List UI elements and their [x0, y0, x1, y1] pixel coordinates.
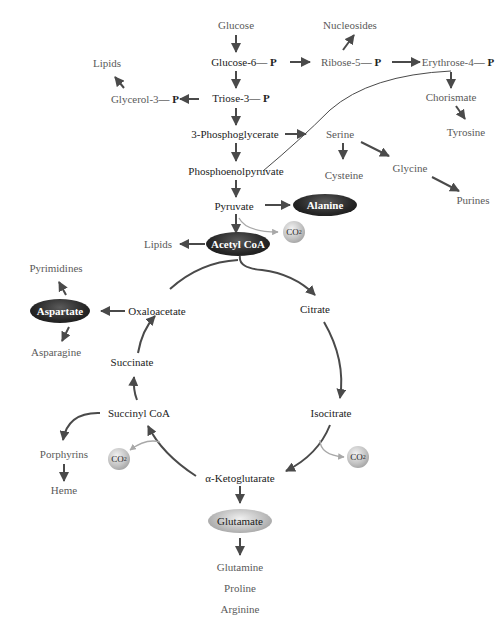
label-purines: Purines: [457, 195, 490, 206]
label-ribose-5-p-text: Ribose-5: [321, 56, 361, 68]
co2-text: CO: [286, 227, 299, 237]
arc-oxaloacetate-top: [170, 260, 238, 289]
co2-subscript: 2: [363, 454, 366, 460]
label-phosphoenolpyruvate: Phosphoenolpyruvate: [188, 166, 283, 177]
arrow-glycerol-lipids: [115, 77, 124, 88]
line-pep-erythrose: [263, 71, 451, 171]
label-succinate: Succinate: [111, 357, 154, 368]
label-glycerol-3-p-text: Glycerol-3: [111, 93, 159, 105]
phosphate-label: — P: [474, 56, 494, 68]
label-glucose: Glucose: [218, 20, 254, 31]
co2-text: CO: [350, 452, 363, 462]
label-oxaloacetate: Oxaloacetate: [128, 306, 185, 317]
label-heme: Heme: [51, 485, 77, 496]
arrow-akg-succinylcoa: [148, 426, 196, 476]
arrow-serine-glycine: [361, 142, 389, 156]
arrow-ribose-nucleosides: [343, 35, 354, 50]
arrow-succinate-oxaloacetate: [138, 316, 155, 353]
co2-alpha-kg: CO2: [108, 448, 130, 470]
co2-text: CO: [111, 454, 124, 464]
label-lipids-top: Lipids: [93, 58, 121, 69]
label-glucose-6-p-text: Glucose-6: [211, 56, 256, 68]
co2-subscript: 2: [124, 456, 127, 462]
label-lipids-mid: Lipids: [144, 239, 172, 250]
label-ribose-5-p: Ribose-5— P: [321, 57, 381, 68]
arrow-akg-co2: [130, 441, 160, 450]
node-glutamate: Glutamate: [208, 509, 272, 533]
co2-isocitrate: CO2: [347, 446, 369, 468]
arrow-aspartate-asparagine: [62, 327, 69, 341]
arrow-isocitrate-co2: [320, 440, 344, 457]
label-asparagine: Asparagine: [31, 347, 81, 358]
label-glycine: Glycine: [393, 163, 428, 174]
label-3-phosphoglycerate: 3-Phosphoglycerate: [191, 129, 278, 140]
co2-subscript: 2: [299, 229, 302, 235]
arrow-succinylcoa-succinate: [134, 377, 137, 400]
label-nucleosides: Nucleosides: [323, 20, 377, 31]
label-alpha-ketoglutarate: α-Ketoglutarate: [205, 473, 274, 484]
label-citrate: Citrate: [300, 304, 330, 315]
label-arginine: Arginine: [221, 604, 260, 615]
label-erythrose-4-p: Erythrose-4— P: [422, 57, 494, 68]
label-succinyl-coa: Succinyl CoA: [108, 408, 170, 419]
label-porphyrins: Porphyrins: [40, 449, 88, 460]
label-glucose-6-p: Glucose-6— P: [211, 57, 277, 68]
label-pyruvate: Pyruvate: [214, 201, 253, 212]
label-triose-3-p-text: Triose-3: [212, 92, 249, 104]
arrow-succinylcoa-porphyrins: [63, 413, 100, 440]
label-pyrimidines: Pyrimidines: [29, 263, 82, 274]
label-triose-3-p: Triose-3— P: [212, 93, 269, 104]
label-glycerol-3-p: Glycerol-3— P: [111, 94, 179, 105]
label-serine: Serine: [326, 129, 354, 140]
node-acetyl-coa: Acetyl CoA: [206, 232, 270, 256]
label-cysteine: Cysteine: [325, 170, 364, 181]
label-glutamine: Glutamine: [217, 562, 263, 573]
phosphate-label: — P: [361, 56, 381, 68]
phosphate-label: — P: [249, 92, 269, 104]
arrow-pyruvate-co2: [239, 218, 278, 232]
arrow-chorismate-tyrosine: [456, 106, 465, 119]
label-chorismate: Chorismate: [426, 92, 477, 103]
label-erythrose-4-p-text: Erythrose-4: [422, 56, 474, 68]
arrow-acetylcoa-citrate: [240, 256, 315, 295]
arrow-aspartate-pyrimidines: [59, 282, 66, 295]
arrow-isocitrate-akg: [286, 425, 330, 471]
phosphate-label: — P: [256, 56, 276, 68]
arrow-glycine-purines: [432, 177, 459, 191]
label-isocitrate: Isocitrate: [311, 408, 352, 419]
phosphate-label: — P: [159, 93, 179, 105]
label-tyrosine: Tyrosine: [447, 127, 485, 138]
node-alanine: Alanine: [293, 194, 357, 216]
arrow-citrate-isocitrate: [324, 322, 341, 398]
node-aspartate: Aspartate: [30, 299, 90, 323]
co2-pyruvate: CO2: [283, 221, 305, 243]
label-proline: Proline: [224, 583, 256, 594]
